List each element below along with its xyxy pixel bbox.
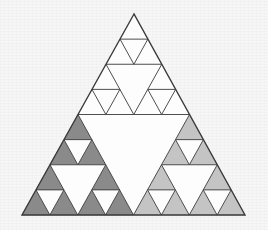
sierpinski-triangle-figure: Sierpinski Triangle Recursive Sierpinski… — [0, 0, 268, 230]
figure-root: Sierpinski Triangle Recursive Sierpinski… — [0, 0, 268, 230]
fractal-hole-group — [36, 39, 231, 215]
fractal-cell-apex — [120, 14, 148, 39]
